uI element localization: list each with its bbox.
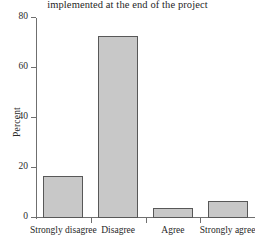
bar: [153, 208, 193, 218]
y-tick-label: 40: [19, 110, 29, 123]
x-axis-label: Strongly disagree: [30, 224, 97, 237]
bar: [98, 36, 138, 219]
bar-chart-figure: implemented at the end of the project Pe…: [0, 0, 255, 243]
x-tick: [200, 218, 201, 223]
y-tick-label: 20: [19, 160, 29, 173]
y-tick-label: 0: [23, 210, 28, 223]
x-axis-label: Disagree: [101, 224, 135, 237]
plot-area: 020406080 Strongly disagreeDisagreeAgree…: [36, 18, 255, 218]
bar: [208, 201, 248, 219]
x-axis-label: Agree: [161, 224, 184, 237]
bars-layer: [36, 18, 255, 218]
x-tick: [146, 218, 147, 223]
x-axis-label: Strongly agree: [200, 224, 255, 237]
bar: [43, 176, 83, 219]
y-tick-label: 80: [19, 10, 29, 23]
chart-title: implemented at the end of the project: [0, 0, 255, 11]
x-tick: [91, 218, 92, 223]
y-tick-label: 60: [19, 60, 29, 73]
